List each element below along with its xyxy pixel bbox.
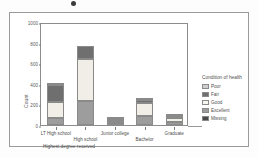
legend-swatch-good: [202, 100, 209, 105]
bar-segment-fair: [77, 46, 94, 59]
y-tick-mark: [39, 106, 42, 107]
legend: Condition of health PoorFairGoodExcellen…: [202, 75, 258, 124]
legend-title: Condition of health: [202, 75, 258, 80]
y-tick-label: 200: [30, 104, 38, 109]
legend-label: Missing: [211, 116, 227, 121]
y-tick-label: 400: [30, 84, 38, 89]
x-tick-label: LT High school: [41, 131, 71, 136]
x-tick-label: Bachelor: [136, 137, 154, 142]
bar-graduate: [166, 114, 183, 125]
legend-entries: PoorFairGoodExcellentMissing: [202, 84, 258, 122]
bar-segment-fair: [47, 85, 64, 102]
y-tick-mark: [39, 24, 42, 25]
legend-item-fair: Fair: [202, 92, 258, 97]
x-tick-label: Graduate: [165, 131, 184, 136]
bar-segment-excellent: [107, 123, 124, 125]
bar-lt-high-school: [47, 83, 64, 125]
bar-bachelor: [136, 98, 153, 125]
legend-connector-line: [188, 126, 202, 127]
plot-area: 02004006008001000 LT High schoolHigh sch…: [40, 23, 188, 126]
y-axis-title: Count: [23, 94, 29, 108]
legend-label: Poor: [211, 84, 221, 89]
x-axis-title: Highest degree received: [43, 144, 95, 149]
legend-swatch-poor: [202, 84, 209, 89]
bar-segment-excellent: [47, 118, 64, 125]
bar-segment-excellent: [166, 122, 183, 125]
y-tick-label: 1000: [28, 22, 38, 27]
y-tick-mark: [39, 85, 42, 86]
y-tick-mark: [39, 65, 42, 66]
x-tick-mark: [145, 127, 146, 130]
y-tick-mark: [39, 127, 42, 128]
bar-segment-good: [47, 102, 64, 118]
bar-segment-good: [77, 59, 94, 101]
legend-swatch-fair: [202, 92, 209, 97]
bar-segment-excellent: [77, 101, 94, 125]
chart-screenshot: Count 02004006008001000 LT High schoolHi…: [0, 0, 258, 158]
legend-item-excellent: Excellent: [202, 108, 258, 113]
bar-segment-good: [136, 103, 153, 116]
x-tick-label: High school: [73, 137, 97, 142]
legend-swatch-excellent: [202, 108, 209, 113]
legend-label: Excellent: [211, 108, 230, 113]
chart-frame: Count 02004006008001000 LT High schoolHi…: [9, 12, 249, 147]
x-tick-mark: [85, 127, 86, 130]
legend-label: Fair: [211, 92, 219, 97]
y-tick-label: 600: [30, 63, 38, 68]
legend-label: Good: [211, 100, 222, 105]
y-tick-mark: [39, 44, 42, 45]
legend-item-missing: Missing: [202, 116, 258, 121]
legend-item-poor: Poor: [202, 84, 258, 89]
bar-segment-excellent: [136, 116, 153, 125]
x-tick-mark: [174, 127, 175, 130]
x-tick-mark: [56, 127, 57, 130]
x-tick-mark: [115, 127, 116, 130]
top-marker-dot: [71, 1, 76, 6]
bar-junior-college: [107, 117, 124, 125]
legend-item-good: Good: [202, 100, 258, 105]
legend-swatch-missing: [202, 116, 209, 121]
bar-high-school: [77, 46, 94, 125]
x-tick-label: Junior college: [101, 131, 129, 136]
y-tick-label: 800: [30, 42, 38, 47]
